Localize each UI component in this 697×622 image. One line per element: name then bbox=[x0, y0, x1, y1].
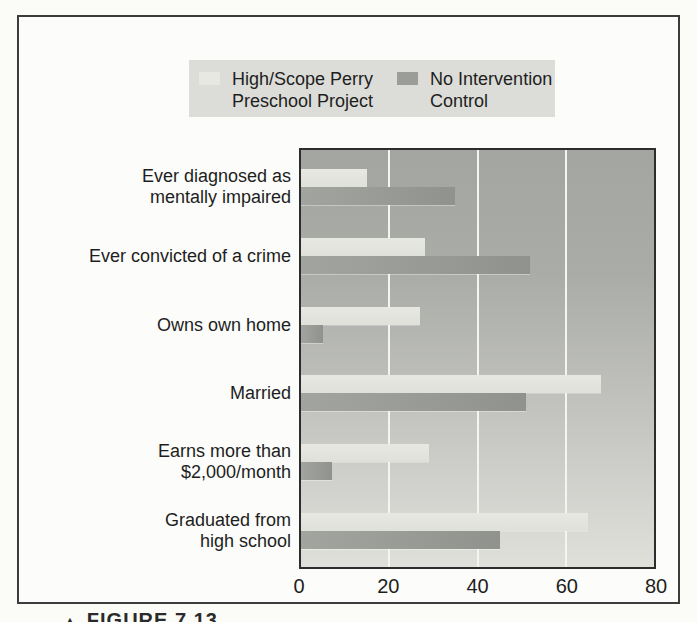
x-axis: 020406080 bbox=[299, 574, 656, 600]
x-tick-label-0: 0 bbox=[293, 574, 304, 598]
legend-entry-perry-preschool: High/Scope PerryPreschool Project bbox=[199, 68, 373, 112]
control-series-swatch-icon bbox=[397, 72, 418, 85]
x-tick-label-80: 80 bbox=[645, 574, 667, 598]
category-label-3: Married bbox=[230, 383, 291, 404]
category-label-5: Graduated fromhigh school bbox=[165, 510, 291, 552]
category-label-4: Earns more than$2,000/month bbox=[158, 441, 291, 483]
x-tick-label-40: 40 bbox=[466, 574, 488, 598]
caption-triangle-icon: ▲ bbox=[62, 613, 79, 622]
bar-control-1 bbox=[301, 256, 530, 274]
gridline-60 bbox=[565, 150, 567, 567]
x-tick-label-20: 20 bbox=[377, 574, 399, 598]
chart-legend: High/Scope PerryPreschool Project No Int… bbox=[189, 60, 555, 117]
bar-control-5 bbox=[301, 531, 500, 549]
plot-area bbox=[299, 148, 656, 569]
bar-perry-4 bbox=[301, 444, 429, 462]
category-axis: Ever diagnosed asmentally impairedEver c… bbox=[47, 148, 291, 569]
perry-series-swatch-icon bbox=[199, 72, 220, 85]
legend-label-control-line1: No Intervention bbox=[430, 69, 552, 89]
gridline-40 bbox=[477, 150, 479, 567]
legend-label-perry-line2: Preschool Project bbox=[232, 91, 373, 111]
bar-control-0 bbox=[301, 187, 455, 205]
bar-control-4 bbox=[301, 462, 332, 480]
legend-label-control: No InterventionControl bbox=[430, 68, 552, 112]
bar-control-2 bbox=[301, 325, 323, 343]
x-tick-label-60: 60 bbox=[556, 574, 578, 598]
category-label-1: Ever convicted of a crime bbox=[89, 246, 291, 267]
bar-perry-0 bbox=[301, 169, 367, 187]
scanned-figure-page: { "figure": { "caption_arrow": "▲", "cap… bbox=[0, 0, 697, 622]
legend-label-perry-line1: High/Scope Perry bbox=[232, 69, 373, 89]
category-label-2: Owns own home bbox=[157, 315, 291, 336]
bar-perry-5 bbox=[301, 513, 588, 531]
figure-caption-text: FIGURE 7.13 bbox=[87, 609, 218, 622]
bar-perry-3 bbox=[301, 375, 601, 393]
legend-label-perry: High/Scope PerryPreschool Project bbox=[232, 68, 373, 112]
gridline-20 bbox=[388, 150, 390, 567]
figure-frame: High/Scope PerryPreschool Project No Int… bbox=[17, 15, 680, 604]
figure-caption: ▲FIGURE 7.13 bbox=[62, 609, 218, 622]
bar-control-3 bbox=[301, 393, 526, 411]
legend-entry-control: No InterventionControl bbox=[397, 68, 552, 112]
legend-label-control-line2: Control bbox=[430, 91, 488, 111]
category-label-0: Ever diagnosed asmentally impaired bbox=[142, 166, 291, 208]
bar-perry-2 bbox=[301, 307, 420, 325]
bar-perry-1 bbox=[301, 238, 425, 256]
